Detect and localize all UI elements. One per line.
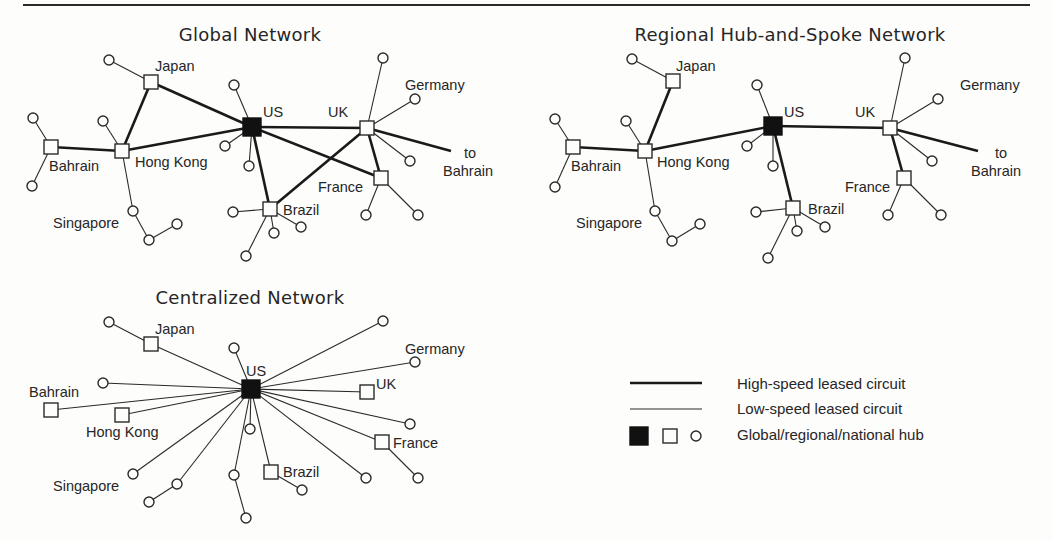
node-label-brazil: Brazil [808,201,844,217]
node-label-singapore-lbl: Singapore [53,478,119,494]
node-label-hongkong: Hong Kong [657,154,730,170]
diagram-regional: Regional Hub-and-Spoke NetworkUSJapanBah… [550,24,1021,263]
national-hub-icon [98,116,108,126]
national-hub-icon [241,513,251,523]
national-hub-icon [405,419,415,429]
national-hub-icon [550,114,560,124]
national-hub-icon [104,55,114,65]
national-hub-icon [27,181,37,191]
high-speed-link [252,127,270,209]
node-label-bahrain: Bahrain [29,384,79,400]
low-speed-link [234,475,246,518]
national-hub-icon [245,424,255,434]
national-hub-icon [128,206,138,216]
node-label-us: US [263,104,283,120]
national-hub-icon [413,210,423,220]
node-label-japan: Japan [155,321,195,337]
national-hub-icon [98,378,108,388]
node-label-uk: UK [855,104,875,120]
regional-hub-france-icon [375,435,389,449]
low-speed-link [122,151,133,211]
national-hub-icon [229,343,239,353]
diagram-title: Global Network [179,24,322,45]
national-hub-icon [650,206,660,216]
low-speed-link [890,58,905,128]
node-label-tobahrain-lbl: to [464,145,476,161]
national-hub-icon [883,210,893,220]
low-speed-link [251,389,410,424]
regional-hub-hongkong-icon [115,144,129,158]
diagram-title: Regional Hub-and-Spoke Network [634,24,945,45]
high-speed-link [122,82,151,151]
regional-hub-brazil-icon [264,465,278,479]
national-hub-icon [550,182,560,192]
low-speed-link [645,151,655,211]
low-speed-link [177,389,251,484]
national-hub-icon [361,210,371,220]
national-hub-icon [413,473,423,483]
low-speed-link [122,389,251,415]
regional-hub-japan-icon [144,337,158,351]
low-speed-link [251,389,367,392]
node-label-brazil: Brazil [283,202,319,218]
node-label-japan: Japan [155,58,195,74]
low-speed-link [51,389,251,410]
high-speed-link [773,126,890,128]
national-hub-icon [228,207,238,217]
national-hub-icon [296,222,306,232]
regional-hub-uk-icon [360,121,374,135]
legend: High-speed leased circuit Low-speed leas… [630,375,924,445]
node-label-france: France [318,179,363,195]
low-speed-link [367,58,383,128]
national-hub-icon [933,94,943,104]
low-speed-link [103,383,251,389]
national-hub-icon [28,113,38,123]
national-hub-icon [244,161,254,171]
regional-hub-icon [663,429,677,443]
national-hub-icon [144,235,154,245]
national-hub-icon [220,141,230,151]
regional-hub-brazil-icon [263,202,277,216]
national-hub-icon [410,357,420,367]
national-hub-icon [695,219,705,229]
node-label-tobahrain-lbl2: Bahrain [971,163,1021,179]
national-hub-icon [229,80,239,90]
high-speed-link [890,128,978,151]
national-hub-icon [229,470,239,480]
regional-hub-bahrain-icon [566,140,580,154]
national-hub-icon [900,53,910,63]
global-hub-us-icon [243,118,261,136]
regional-hub-japan-icon [144,75,158,89]
national-hub-icon [378,316,388,326]
national-hub-icon [361,473,371,483]
regional-hub-uk-icon [883,121,897,135]
regional-hub-france-icon [897,171,911,185]
national-hub-icon [269,228,279,238]
regional-hub-hongkong-icon [638,144,652,158]
national-hub-icon [763,253,773,263]
diagrams: Global NetworkUSJapanBahrainHong KongUKF… [27,24,1021,523]
high-speed-link [122,127,252,151]
national-hub-icon [297,485,307,495]
node-label-singapore-lbl: Singapore [576,215,642,231]
node-label-france: France [845,179,890,195]
legend-label-hubs: Global/regional/national hub [737,426,924,443]
national-hub-icon [410,94,420,104]
node-label-singapore-lbl: Singapore [53,215,119,231]
regional-hub-japan-icon [666,74,680,88]
high-speed-link [51,147,122,151]
global-hub-icon [630,427,648,445]
national-hub-icon [667,236,677,246]
national-hub-icon [792,226,802,236]
high-speed-link [645,81,673,151]
node-label-france: France [393,435,438,451]
node-label-germany-lbl: Germany [405,341,465,357]
national-hub-icon [768,161,778,171]
high-speed-link [573,147,645,151]
node-label-tobahrain-lbl: to [995,145,1007,161]
diagram-global: Global NetworkUSJapanBahrainHong KongUKF… [27,24,493,261]
node-label-us: US [784,104,804,120]
regional-hub-bahrain-icon [44,140,58,154]
national-hub-icon [241,251,251,261]
national-hub-icon [927,156,937,166]
